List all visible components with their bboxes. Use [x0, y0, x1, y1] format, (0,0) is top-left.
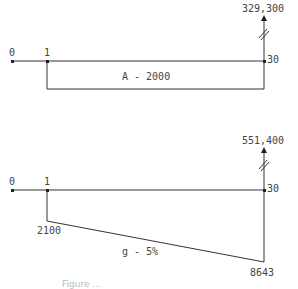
point-30-bottom: [263, 189, 266, 192]
point-0-top: [11, 60, 14, 63]
point-30-top: [263, 60, 266, 63]
arrowhead-top-icon: [261, 15, 267, 21]
period-1-bottom-label: 1: [44, 177, 50, 187]
first-payment-label: 2100: [37, 226, 61, 236]
point-1-top: [46, 60, 49, 63]
period-0-bottom-label: 0: [9, 177, 15, 187]
uniform-series-label: A - 2000: [122, 72, 170, 82]
point-0-bottom: [11, 189, 14, 192]
period-30-bottom-label: 30: [267, 184, 279, 194]
break-mark-top-1: [259, 29, 267, 38]
future-value-bottom-label: 551,400: [242, 136, 284, 146]
period-30-top-label: 30: [267, 55, 279, 65]
future-value-top-label: 329,300: [242, 4, 284, 14]
last-payment-label: 8643: [250, 268, 274, 278]
break-mark-top-2: [261, 31, 269, 40]
figure-caption: Figure ...: [62, 280, 101, 289]
point-1-bottom: [46, 189, 49, 192]
arrowhead-bottom-icon: [261, 147, 267, 153]
period-0-top-label: 0: [9, 48, 15, 58]
break-mark-bottom-1: [259, 160, 267, 169]
period-1-top-label: 1: [44, 48, 50, 58]
gradient-rate-label: g - 5%: [122, 247, 158, 257]
break-mark-bottom-2: [261, 162, 269, 171]
